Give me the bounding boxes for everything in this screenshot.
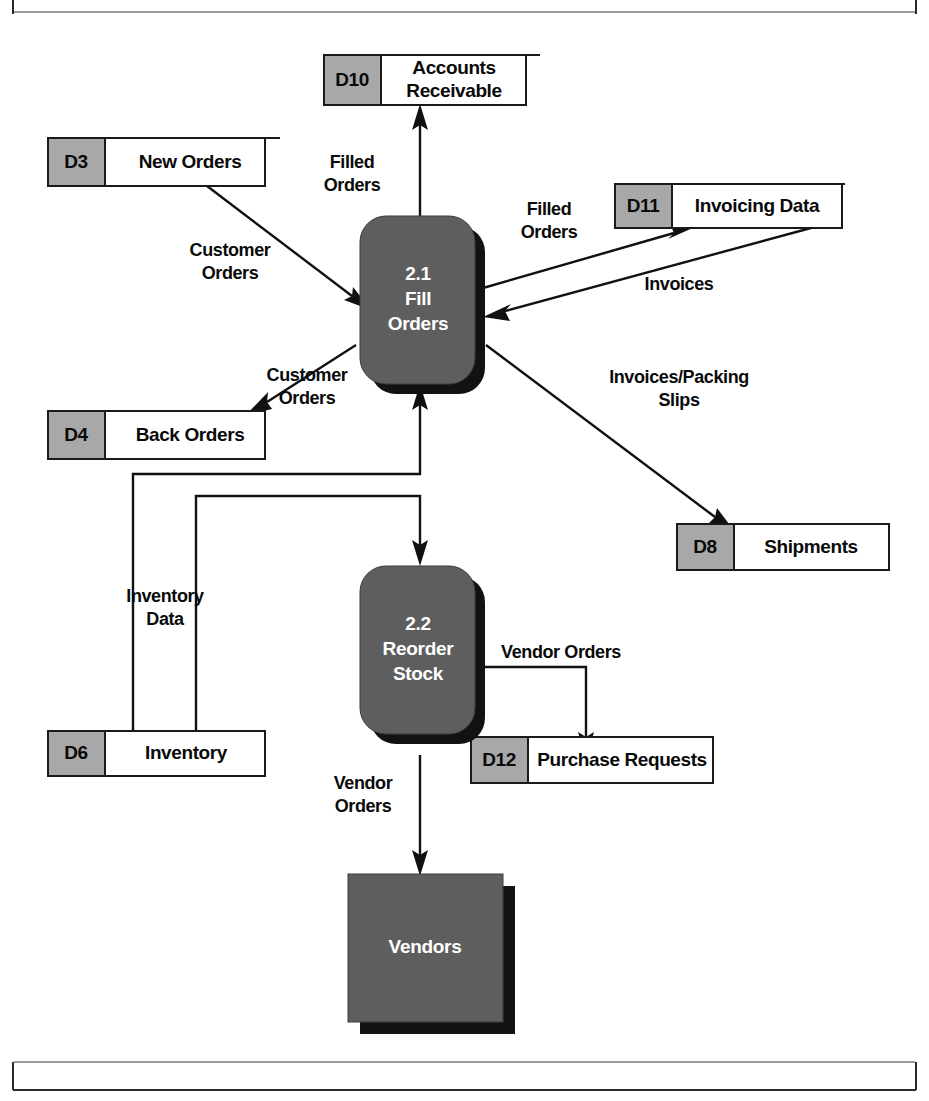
process-2-2-number: 2.2 (405, 613, 431, 634)
flow-label-vendor-orders-vendors: Vendor Orders (334, 773, 393, 816)
document-page: D10 Accounts Receivable D3 New Orders D1… (0, 0, 929, 1101)
flow-label-customer-orders-d4: Customer Orders (267, 365, 348, 408)
flow-label-line2: Orders (279, 388, 336, 408)
flow-vendor-orders-to-vendors (412, 755, 428, 876)
flow-label-line1: Customer (267, 365, 348, 385)
flow-label-filled-orders-d11: Filled Orders (521, 199, 578, 242)
process-2-2-name-line2: Stock (393, 663, 444, 684)
flow-label-inventory-data: Inventory Data (126, 586, 204, 629)
flow-label-line2: Orders (324, 175, 381, 195)
process-2-1-name-line2: Orders (388, 313, 449, 334)
process-2-2-name-line1: Reorder (383, 638, 455, 659)
flow-label-line1: Invoices/Packing (609, 367, 749, 387)
data-store-d6-name: Inventory (145, 742, 228, 763)
process-2-1-name-line1: Fill (405, 288, 431, 309)
data-store-d11-id: D11 (627, 195, 660, 216)
external-entity-vendors[interactable]: Vendors (348, 874, 515, 1034)
data-store-d8[interactable]: D8 Shipments (677, 524, 890, 570)
flow-label-line1: Inventory (126, 586, 204, 606)
flow-label-invoices-packing-slips: Invoices/Packing Slips (609, 367, 749, 410)
flow-label-line1: Vendor Orders (501, 642, 621, 662)
flow-label-line1: Filled (330, 152, 375, 172)
data-store-d3-id: D3 (64, 151, 88, 172)
flow-label-line2: Data (146, 609, 185, 629)
data-store-d8-id: D8 (693, 536, 717, 557)
data-store-d3[interactable]: D3 New Orders (48, 138, 280, 186)
flow-label-line1: Customer (190, 240, 271, 260)
data-flow-diagram: D10 Accounts Receivable D3 New Orders D1… (0, 0, 929, 1101)
data-store-d11-name: Invoicing Data (695, 195, 820, 216)
data-store-d6[interactable]: D6 Inventory (48, 731, 265, 776)
data-store-d4-name: Back Orders (136, 424, 245, 445)
flow-label-invoices: Invoices (645, 274, 714, 294)
data-store-d10-id: D10 (335, 69, 369, 90)
flow-label-line1: Vendor (334, 773, 393, 793)
data-store-d8-name: Shipments (764, 536, 858, 557)
flow-filled-orders-to-d10 (412, 104, 428, 216)
process-2-2-reorder-stock[interactable]: 2.2 Reorder Stock (360, 566, 485, 744)
data-store-d10[interactable]: D10 Accounts Receivable (324, 55, 540, 105)
data-store-d4[interactable]: D4 Back Orders (48, 411, 265, 459)
data-store-d10-name-line2: Receivable (406, 80, 501, 101)
data-store-d11[interactable]: D11 Invoicing Data (615, 184, 845, 228)
flow-label-filled-orders-d10: Filled Orders (324, 152, 381, 195)
process-2-1-fill-orders[interactable]: 2.1 Fill Orders (360, 216, 485, 394)
data-store-d4-id: D4 (64, 424, 88, 445)
data-store-d12-id: D12 (482, 749, 516, 770)
flow-label-line2: Orders (335, 796, 392, 816)
flow-label-line2: Orders (521, 222, 578, 242)
process-2-1-number: 2.1 (405, 263, 431, 284)
data-store-d6-id: D6 (64, 742, 88, 763)
data-store-d3-name: New Orders (139, 151, 242, 172)
data-store-d12-name: Purchase Requests (537, 749, 707, 770)
flow-label-line2: Orders (202, 263, 259, 283)
flow-label-line2: Slips (658, 390, 699, 410)
external-entity-vendors-label: Vendors (389, 936, 462, 957)
data-store-d12[interactable]: D12 Purchase Requests (471, 737, 713, 783)
flow-label-customer-orders-d3: Customer Orders (190, 240, 271, 283)
flow-label-line1: Filled (527, 199, 572, 219)
flow-label-line1: Invoices (645, 274, 714, 294)
data-store-d10-name-line1: Accounts (412, 57, 495, 78)
flow-label-vendor-orders-d12: Vendor Orders (501, 642, 621, 662)
